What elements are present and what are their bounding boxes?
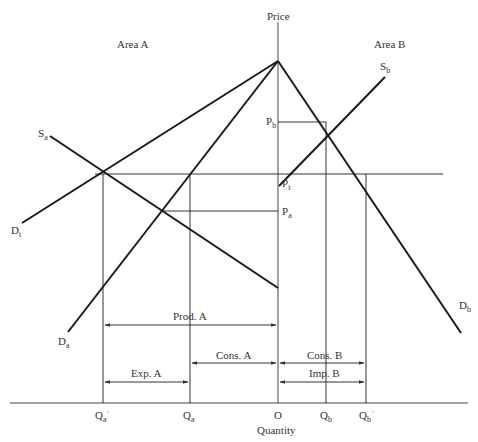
demand-curve-a (68, 61, 278, 332)
sb-label: Sb (380, 61, 390, 75)
dt-label: Dt (11, 225, 21, 239)
qa-prime-label: Qa' (95, 410, 109, 424)
db-label: Db (459, 300, 471, 314)
sa-label: Sa (38, 128, 48, 142)
demand-curve-b (278, 61, 461, 333)
area-a-label: Area A (117, 39, 148, 50)
pb-label: Pb (266, 116, 276, 130)
quantity-axis-label: Quantity (257, 425, 296, 436)
trade-diagram (0, 0, 478, 442)
supply-curve-b (279, 77, 385, 186)
qb-prime-label: Qb' (359, 410, 373, 424)
cons-a-label: Cons. A (216, 350, 251, 361)
exp-a-label: Exp. A (131, 368, 162, 379)
price-axis-label: Price (267, 11, 290, 22)
prod-a-label: Prod. A (173, 311, 207, 322)
da-label: Da (58, 336, 70, 350)
cons-b-label: Cons. B (307, 350, 342, 361)
qa-label: Qa (183, 410, 195, 424)
pa-label: Pa (282, 206, 292, 220)
supply-curve-a (50, 136, 278, 288)
origin-label: O (274, 410, 282, 421)
area-b-label: Area B (374, 39, 405, 50)
imp-b-label: Imp. B (309, 368, 340, 379)
qb-label: Qb (320, 410, 332, 424)
pt-label: Pt (282, 178, 290, 192)
